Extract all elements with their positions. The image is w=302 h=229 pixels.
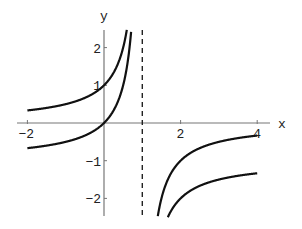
plot-area: −224−2−112 x y bbox=[0, 0, 302, 229]
y-tick-label: −1 bbox=[85, 155, 101, 170]
x-tick-label: −2 bbox=[18, 127, 34, 142]
x-tick-label: 2 bbox=[177, 127, 185, 142]
curve-2 bbox=[168, 173, 257, 217]
axis-labels: x y bbox=[100, 9, 286, 132]
y-tick-label: 2 bbox=[93, 42, 101, 57]
x-axis-label: x bbox=[278, 117, 286, 132]
curve-1 bbox=[27, 30, 126, 111]
y-tick-label: −2 bbox=[85, 192, 101, 207]
curve-2 bbox=[27, 32, 131, 148]
axes: −224−2−112 bbox=[17, 30, 270, 216]
y-axis-label: y bbox=[100, 9, 108, 24]
x-tick-label: 4 bbox=[253, 127, 261, 142]
